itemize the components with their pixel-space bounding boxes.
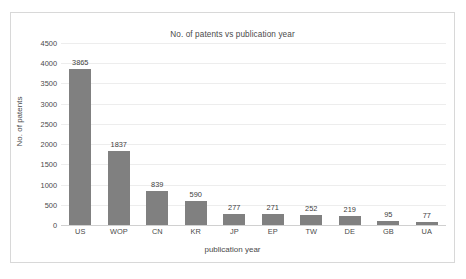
x-axis-tick-label: JP bbox=[215, 227, 254, 236]
y-axis-tick-label: 4500 bbox=[25, 39, 57, 48]
bar bbox=[416, 222, 438, 225]
y-axis-tick-label: 1500 bbox=[25, 160, 57, 169]
chart-title: No. of patents vs publication year bbox=[11, 30, 454, 39]
bar-group: 1837 bbox=[100, 43, 139, 225]
y-axis-tick-label: 1000 bbox=[25, 180, 57, 189]
bar-value-label: 252 bbox=[292, 204, 331, 213]
bar-group: 839 bbox=[138, 43, 177, 225]
bar-value-label: 3865 bbox=[61, 58, 100, 67]
y-axis-tick-label: 0 bbox=[25, 221, 57, 230]
bar-group: 590 bbox=[177, 43, 216, 225]
y-axis-tick-label: 500 bbox=[25, 200, 57, 209]
x-axis-tick-label: KR bbox=[177, 227, 216, 236]
bar-value-label: 95 bbox=[369, 210, 408, 219]
x-axis-tick-label: WOP bbox=[100, 227, 139, 236]
y-axis-tick-label: 2500 bbox=[25, 119, 57, 128]
bar-group: 77 bbox=[408, 43, 447, 225]
y-axis-tick-label: 3000 bbox=[25, 99, 57, 108]
chart-frame: No. of patents vs publication year No. o… bbox=[10, 12, 455, 263]
bar-value-label: 77 bbox=[408, 211, 447, 220]
x-axis-title: publication year bbox=[11, 245, 454, 254]
plot-area: 386518378395902772712522199577 bbox=[61, 43, 446, 225]
x-axis-tick-label: TW bbox=[292, 227, 331, 236]
bar-group: 271 bbox=[254, 43, 293, 225]
y-axis-tick-label: 3500 bbox=[25, 79, 57, 88]
bar-group: 95 bbox=[369, 43, 408, 225]
y-axis-title: No. of patents bbox=[15, 87, 24, 157]
x-axis-tick-labels: USWOPCNKRJPEPTWDEGBUA bbox=[61, 227, 446, 236]
bar-group: 277 bbox=[215, 43, 254, 225]
x-axis-tick-label: CN bbox=[138, 227, 177, 236]
bar bbox=[377, 221, 399, 225]
y-axis-tick-label: 2000 bbox=[25, 140, 57, 149]
bar-value-label: 590 bbox=[177, 190, 216, 199]
bar bbox=[185, 201, 207, 225]
bar bbox=[262, 214, 284, 225]
bar-value-label: 271 bbox=[254, 203, 293, 212]
bar-value-label: 277 bbox=[215, 203, 254, 212]
x-axis-tick-label: EP bbox=[254, 227, 293, 236]
bar bbox=[300, 215, 322, 225]
bar bbox=[223, 214, 245, 225]
bar bbox=[339, 216, 361, 225]
x-axis-tick-label: DE bbox=[331, 227, 370, 236]
bar-group: 3865 bbox=[61, 43, 100, 225]
bar-value-label: 1837 bbox=[100, 140, 139, 149]
bar bbox=[108, 151, 130, 225]
y-axis-tick-label: 4000 bbox=[25, 59, 57, 68]
bar-series: 386518378395902772712522199577 bbox=[61, 43, 446, 225]
bar-value-label: 219 bbox=[331, 205, 370, 214]
bar-group: 252 bbox=[292, 43, 331, 225]
axis-baseline bbox=[61, 225, 446, 226]
bar bbox=[146, 191, 168, 225]
bar-value-label: 839 bbox=[138, 180, 177, 189]
bar bbox=[69, 69, 91, 225]
x-axis-tick-label: US bbox=[61, 227, 100, 236]
y-axis-tick-labels: 450040003500300025002000150010005000 bbox=[25, 43, 57, 225]
bar-group: 219 bbox=[331, 43, 370, 225]
x-axis-tick-label: GB bbox=[369, 227, 408, 236]
x-axis-tick-label: UA bbox=[408, 227, 447, 236]
